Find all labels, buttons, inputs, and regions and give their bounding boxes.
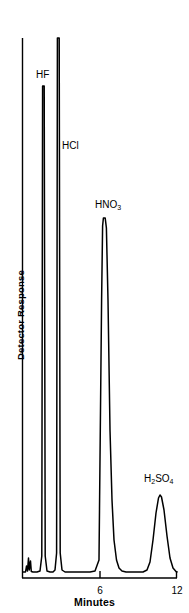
peak-label-hf: HF	[36, 70, 49, 80]
chromatogram-plot	[0, 0, 189, 613]
peak-label-h2so4: H2SO4	[144, 474, 174, 484]
trace-path	[23, 38, 177, 572]
chromatogram-trace	[23, 38, 177, 572]
x-tick-label-12: 12	[165, 585, 189, 596]
chromatogram-figure: Detector Response Minutes 6 12 HF HCl HN…	[0, 0, 189, 613]
y-axis-title: Detector Response	[15, 270, 26, 360]
peak-label-hcl: HCl	[62, 141, 79, 151]
x-tick-label-6: 6	[88, 585, 112, 596]
peak-label-h2so4-subscript-2: 2	[151, 478, 155, 485]
peak-label-h2so4-so: SO	[155, 473, 169, 484]
peak-label-hno3-subscript: 3	[117, 204, 121, 211]
peak-label-hno3: HNO3	[95, 200, 121, 210]
peak-label-h2so4-subscript-4: 4	[170, 478, 174, 485]
peak-label-hno3-base: HNO	[95, 199, 117, 210]
x-axis-title: Minutes	[0, 596, 189, 608]
